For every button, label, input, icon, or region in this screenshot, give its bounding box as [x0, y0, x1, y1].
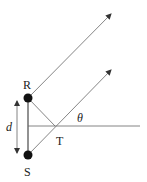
label-r: R — [23, 78, 31, 92]
ray-from-r — [28, 14, 111, 98]
label-s: S — [24, 165, 31, 179]
point-r-dot — [24, 94, 33, 103]
point-s-dot — [24, 151, 33, 160]
label-theta: θ — [77, 111, 83, 125]
diagram-canvas: R S T d θ — [0, 0, 147, 182]
label-t: T — [56, 134, 64, 148]
label-d: d — [6, 120, 13, 134]
ray-from-s — [28, 70, 111, 155]
r-to-t-segment — [28, 98, 55, 126]
